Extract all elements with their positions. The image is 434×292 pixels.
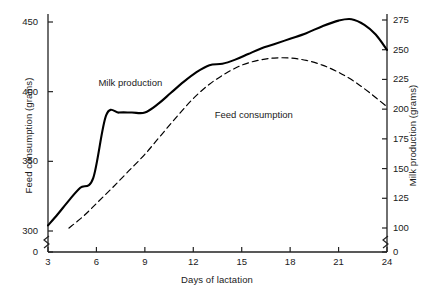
x-tick-label: 12 (178, 256, 208, 267)
chart-figure: Feed consumption (grams) Milk production… (0, 0, 434, 292)
y-tick-label-right: 250 (393, 44, 427, 55)
y-tick-label-right: 125 (393, 192, 427, 203)
axes (44, 14, 388, 252)
y-tick-label-right: 200 (393, 103, 427, 114)
series-label-milk-production: Milk production (98, 77, 162, 88)
y-tick-label-left: 400 (4, 86, 38, 97)
y-tick-label-right: 150 (393, 163, 427, 174)
series-label-feed-consumption: Feed consumption (215, 109, 293, 120)
y-axis-left-title: Feed consumption (grams) (23, 56, 34, 216)
y-tick-label-right: 225 (393, 73, 427, 84)
x-axis-title: Days of lactation (0, 274, 434, 285)
x-tick-label: 24 (372, 256, 402, 267)
chart-plot-area (0, 0, 434, 292)
series-line-feed-consumption (48, 19, 387, 225)
y-tick-label-right: 100 (393, 222, 427, 233)
x-tick-label: 21 (324, 256, 354, 267)
x-tick-label: 3 (33, 256, 63, 267)
x-tick-label: 18 (275, 256, 305, 267)
y-tick-label-left: 450 (4, 16, 38, 27)
y-tick-label-left: 350 (4, 155, 38, 166)
x-tick-label: 15 (227, 256, 257, 267)
y-tick-label-right: 275 (393, 14, 427, 25)
data-series (48, 19, 387, 228)
x-tick-label: 9 (130, 256, 160, 267)
x-tick-label: 6 (81, 256, 111, 267)
y-tick-label-left: 300 (4, 225, 38, 236)
y-tick-label-right: 175 (393, 133, 427, 144)
